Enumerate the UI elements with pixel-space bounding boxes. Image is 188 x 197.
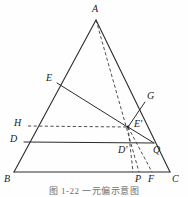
segment-h-eprime — [28, 126, 128, 127]
label-point-b: B — [4, 174, 10, 184]
segment-eprime-q — [128, 127, 154, 143]
figure-canvas — [0, 0, 188, 197]
eprime-node — [127, 126, 130, 129]
segment-e-eprime — [57, 83, 129, 128]
label-point-p: P — [135, 174, 141, 184]
segment-eprime-f — [128, 127, 152, 172]
label-point-f: F — [148, 174, 154, 184]
label-point-d: D — [10, 134, 17, 144]
label-point-g: G — [147, 91, 154, 101]
segment-d-q — [24, 142, 154, 143]
label-point-e-prime: E — [134, 119, 142, 129]
label-point-q: Q — [153, 145, 160, 155]
label-point-e: E — [46, 73, 52, 83]
label-point-h: H — [14, 118, 21, 128]
geometry-figure: A B C E H D G Q E D P F 图 1-22 一元偏示意图 — [0, 0, 188, 197]
figure-caption: 图 1-22 一元偏示意图 — [0, 186, 188, 197]
label-point-c: C — [172, 174, 179, 184]
label-point-a: A — [92, 4, 98, 14]
interior-solid-lines — [24, 83, 154, 143]
label-point-d-prime: D — [118, 145, 127, 155]
side-ab — [14, 20, 96, 172]
